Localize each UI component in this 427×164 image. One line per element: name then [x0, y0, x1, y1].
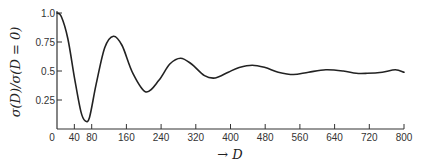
y-tick-label: 0.25	[36, 95, 56, 106]
x-tick-label: 160	[118, 132, 135, 143]
x-axis-title: → D	[217, 147, 243, 162]
y-tick-label: 0.5	[41, 66, 55, 77]
y-tick-label: 0.75	[36, 37, 56, 48]
x-tick-label: 0	[49, 132, 55, 143]
y-tick-label: 1.0	[41, 8, 55, 19]
x-tick-label: 800	[396, 132, 413, 143]
x-tick-label: 240	[153, 132, 170, 143]
x-tick-label: 720	[361, 132, 378, 143]
x-tick-label: 80	[86, 132, 98, 143]
x-tick-label: 480	[257, 132, 274, 143]
axes	[57, 11, 404, 129]
y-axis-title: σ(D)/σ(D = 0)	[8, 27, 23, 118]
damped-oscillation-chart: 040801602403204004805606407208000.250.50…	[0, 0, 427, 164]
x-tick-label: 40	[69, 132, 81, 143]
x-tick-label: 320	[187, 132, 204, 143]
x-tick-label: 640	[326, 132, 343, 143]
data-line	[57, 13, 404, 122]
ticks: 040801602403204004805606407208000.250.50…	[36, 8, 413, 144]
x-tick-label: 560	[292, 132, 309, 143]
x-tick-label: 400	[222, 132, 239, 143]
